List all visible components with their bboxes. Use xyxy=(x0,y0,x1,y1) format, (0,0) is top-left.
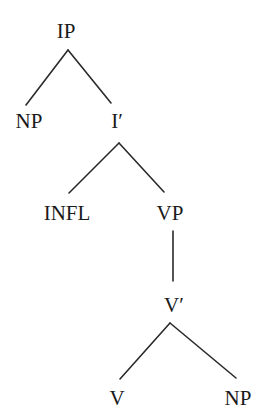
edge-ip-np xyxy=(26,50,68,105)
node-v-bar: V′ xyxy=(164,295,184,316)
syntax-tree-diagram: IP NP I′ INFL VP V′ V NP xyxy=(0,0,267,416)
node-ip: IP xyxy=(57,21,76,42)
edge-vbar-v xyxy=(120,323,170,379)
node-i-bar: I′ xyxy=(111,111,123,132)
edge-ibar-infl xyxy=(69,143,119,193)
tree-edges xyxy=(0,0,267,416)
edge-vbar-np xyxy=(170,323,236,378)
node-vp: VP xyxy=(157,203,184,224)
edge-ibar-vp xyxy=(119,143,164,192)
node-v: V xyxy=(109,388,124,409)
node-np-subject: NP xyxy=(16,111,43,132)
edge-ip-ibar xyxy=(68,50,111,103)
node-infl: INFL xyxy=(44,203,91,224)
node-np-object: NP xyxy=(225,388,252,409)
